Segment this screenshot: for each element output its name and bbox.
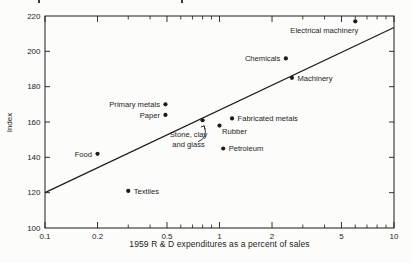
- point-label: Fabricated metals: [238, 114, 299, 123]
- y-tick-label: 160: [27, 118, 41, 127]
- figure: 0.10.20.512510100120140160180200220Elect…: [0, 0, 412, 263]
- data-point-stone-clay-and-glass: [200, 118, 204, 122]
- y-tick-label: 140: [27, 153, 41, 162]
- data-point-petroleum: [221, 146, 225, 150]
- y-tick-label: 200: [27, 47, 41, 56]
- y-tick-label: 220: [27, 12, 41, 21]
- y-axis-title: Index: [5, 93, 14, 153]
- data-point-electrical-machinery: [353, 19, 357, 23]
- trend-line: [45, 27, 394, 192]
- point-label: Machinery: [297, 74, 332, 83]
- scatter-plot: 0.10.20.512510100120140160180200220Elect…: [0, 0, 412, 263]
- point-label: Food: [75, 150, 92, 159]
- y-tick-label: 180: [27, 82, 41, 91]
- point-label: Stone, clay: [170, 130, 208, 139]
- point-label: Paper: [140, 111, 161, 120]
- data-point-fabricated-metals: [230, 116, 234, 120]
- point-label: Primary metals: [109, 100, 160, 109]
- point-label: Textiles: [134, 187, 160, 196]
- data-point-machinery: [290, 76, 294, 80]
- data-point-primary-metals: [163, 102, 167, 106]
- data-point-rubber: [217, 123, 221, 127]
- y-tick-label: 120: [27, 188, 41, 197]
- data-point-paper: [163, 113, 167, 117]
- point-label: Chemicals: [245, 54, 281, 63]
- data-point-food: [95, 152, 99, 156]
- data-point-chemicals: [284, 56, 288, 60]
- point-label: Petroleum: [229, 144, 264, 153]
- callout-arrowhead: [201, 126, 205, 129]
- x-axis-title: 1959 R & D expenditures as a percent of …: [45, 239, 394, 249]
- y-tick-label: 100: [27, 224, 41, 233]
- data-point-textiles: [126, 189, 130, 193]
- point-label: Rubber: [222, 127, 247, 136]
- point-label: Electrical machinery: [290, 26, 358, 35]
- plot-frame: [45, 16, 394, 228]
